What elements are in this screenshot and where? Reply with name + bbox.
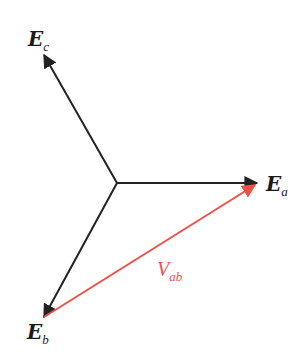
phasor-eb-arrow	[44, 183, 117, 317]
label-ec: Ec	[27, 27, 49, 54]
label-eb: Eb	[26, 320, 49, 347]
label-ea: Ea	[265, 172, 288, 199]
label-vab: Vab	[157, 258, 183, 284]
phasor-ec-arrow	[44, 55, 117, 183]
line-voltage-vab-arrow	[44, 185, 255, 317]
phasor-diagram: Ec Ea Eb Vab	[0, 0, 307, 360]
